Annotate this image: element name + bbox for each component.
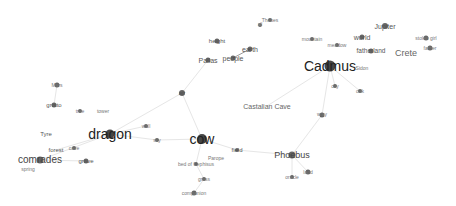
- node-height[interactable]: [215, 39, 220, 44]
- node-wall[interactable]: [144, 124, 148, 128]
- edge-mars-grotto: [54, 85, 57, 105]
- node-grove[interactable]: [84, 159, 89, 164]
- edge-way-phoebus: [292, 115, 322, 155]
- node-dragon[interactable]: [106, 130, 115, 139]
- node-cave[interactable]: [72, 146, 76, 150]
- edge-dragon-forest: [56, 134, 110, 150]
- node-all[interactable]: [258, 23, 262, 27]
- node-phoebus[interactable]: [289, 152, 296, 159]
- node-air[interactable]: [179, 90, 185, 96]
- node-oracle[interactable]: [290, 175, 294, 179]
- node-jupiter[interactable]: [382, 23, 388, 29]
- edge-cadmus-castalian-cave: [267, 66, 330, 106]
- edge-grass-companion: [194, 179, 204, 193]
- edge-cow-field: [202, 139, 237, 150]
- node-mars[interactable]: [55, 83, 60, 88]
- node-oak[interactable]: [358, 89, 362, 93]
- node-bed-of-cephisus[interactable]: [194, 162, 198, 166]
- edge-cadmus-way: [322, 66, 330, 115]
- node-cow[interactable]: [197, 134, 207, 144]
- edge-air-pallas: [182, 60, 208, 93]
- node-meadow[interactable]: [335, 43, 339, 47]
- node-pallas[interactable]: [206, 58, 211, 63]
- node-mountain[interactable]: [310, 37, 314, 41]
- edge-dragon-wall: [110, 126, 146, 134]
- graph-nodes: [37, 18, 433, 196]
- edge-people-earth: [233, 49, 250, 58]
- node-land[interactable]: [306, 170, 311, 175]
- edge-dragon-sky: [110, 134, 157, 140]
- node-comrades[interactable]: [37, 157, 44, 164]
- node-grass[interactable]: [202, 177, 206, 181]
- graph-edges: [40, 49, 360, 193]
- node-thebes[interactable]: [268, 18, 272, 22]
- node-people[interactable]: [231, 56, 236, 61]
- edge-bed-of-cephisus-grass: [196, 164, 204, 179]
- edge-field-phoebus: [237, 150, 292, 155]
- node-sky[interactable]: [155, 138, 159, 142]
- node-city[interactable]: [333, 84, 337, 88]
- node-father[interactable]: [428, 46, 433, 51]
- node-stolen-girl[interactable]: [424, 36, 429, 41]
- node-tree[interactable]: [78, 109, 82, 113]
- edge-cow-air: [182, 93, 202, 139]
- node-way[interactable]: [320, 113, 325, 118]
- node-earth[interactable]: [248, 47, 253, 52]
- node-world[interactable]: [360, 35, 365, 40]
- edge-comrades-grove: [40, 160, 86, 161]
- node-fatherland[interactable]: [369, 49, 374, 54]
- node-field[interactable]: [235, 148, 239, 152]
- edge-cow-sky: [157, 139, 202, 140]
- node-grotto[interactable]: [52, 103, 57, 108]
- node-companion[interactable]: [192, 191, 197, 196]
- network-graph: [0, 0, 456, 206]
- node-cadmus[interactable]: [325, 61, 336, 72]
- edge-phoebus-land: [292, 155, 308, 172]
